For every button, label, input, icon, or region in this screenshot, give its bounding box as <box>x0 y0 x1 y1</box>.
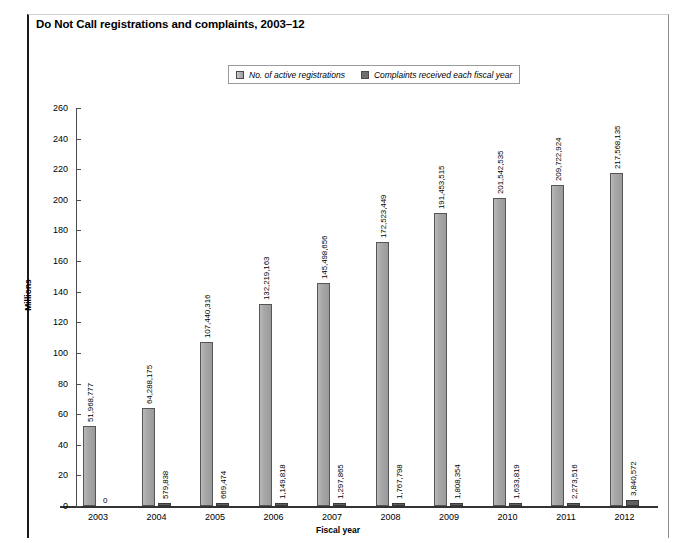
bar-value-complaints: 1,767,798 <box>395 464 404 499</box>
bar-registrations <box>317 283 330 506</box>
y-tick-mark <box>76 506 81 507</box>
y-tick-mark <box>76 292 81 293</box>
x-tick-label: 2004 <box>127 512 187 522</box>
bar-value-complaints: 579,838 <box>161 471 170 499</box>
bar-value-registrations: 209,722,924 <box>554 138 563 181</box>
bar-group: 145,498,6561,297,865 <box>317 108 357 506</box>
bar-value-registrations: 217,568,135 <box>613 126 622 169</box>
bar-value-complaints: 1,149,818 <box>278 464 287 499</box>
bar-complaints <box>216 503 229 506</box>
bar-registrations <box>434 213 447 506</box>
bar-registrations <box>259 304 272 506</box>
bar-value-complaints: 3,840,572 <box>629 461 638 496</box>
bar-registrations <box>493 198 506 507</box>
bar-value-registrations: 145,498,656 <box>320 236 329 279</box>
x-tick-label: 2009 <box>419 512 479 522</box>
x-tick-label: 2006 <box>244 512 304 522</box>
y-tick-label: 160 <box>53 256 68 266</box>
y-tick-mark <box>76 200 81 201</box>
bar-registrations <box>142 408 155 506</box>
bar-group: 107,440,316669,474 <box>200 108 240 506</box>
y-tick-mark <box>76 353 81 354</box>
legend-label-complaints: Complaints received each fiscal year <box>374 70 512 80</box>
y-tick-label: 80 <box>58 379 68 389</box>
x-tick-label: 2012 <box>595 512 655 522</box>
bar-complaints <box>567 503 580 506</box>
bar-complaints <box>333 503 346 506</box>
bar-registrations <box>376 242 389 506</box>
bar-value-complaints: 2,273,516 <box>570 464 579 499</box>
x-tick-label: 2005 <box>185 512 245 522</box>
y-axis-title: Millions <box>23 265 33 325</box>
y-tick-mark <box>76 322 81 323</box>
bar-value-registrations: 107,440,316 <box>203 294 212 337</box>
bar-complaints <box>509 503 522 506</box>
bar-registrations <box>83 426 96 506</box>
y-tick-mark <box>76 230 81 231</box>
bar-complaints <box>450 503 463 506</box>
bar-group: 191,453,5151,808,354 <box>434 108 474 506</box>
y-tick-label: 100 <box>53 348 68 358</box>
chart-title: Do Not Call registrations and complaints… <box>36 18 305 30</box>
y-tick-label: 40 <box>58 440 68 450</box>
bar-group: 132,219,1631,149,818 <box>259 108 299 506</box>
y-tick-label: 0 <box>63 501 68 511</box>
bar-value-registrations: 64,288,175 <box>145 365 154 404</box>
y-tick-mark <box>76 108 81 109</box>
bar-registrations <box>610 173 623 506</box>
bar-value-complaints: 1,633,819 <box>512 464 521 499</box>
legend-item-complaints: Complaints received each fiscal year <box>361 70 512 80</box>
y-tick-label: 140 <box>53 287 68 297</box>
bar-group: 201,542,5351,633,819 <box>493 108 533 506</box>
y-tick-label: 240 <box>53 134 68 144</box>
y-tick-label: 180 <box>53 225 68 235</box>
y-tick-label: 220 <box>53 164 68 174</box>
y-tick-mark <box>76 384 81 385</box>
chart-figure: Do Not Call registrations and complaints… <box>0 0 676 543</box>
x-axis-line <box>60 506 658 508</box>
y-tick-mark <box>76 475 81 476</box>
legend-item-registrations: No. of active registrations <box>236 70 345 80</box>
chart-legend: No. of active registrations Complaints r… <box>228 65 520 84</box>
bar-value-complaints: 1,808,354 <box>453 464 462 499</box>
bar-value-registrations: 201,542,535 <box>496 150 505 193</box>
y-tick-mark <box>76 445 81 446</box>
bar-group: 217,568,1353,840,572 <box>610 108 650 506</box>
y-tick-label: 200 <box>53 195 68 205</box>
y-tick-mark <box>76 139 81 140</box>
y-tick-label: 120 <box>53 317 68 327</box>
bar-group: 172,523,4491,767,798 <box>376 108 416 506</box>
bar-value-registrations: 191,453,515 <box>437 166 446 209</box>
bar-complaints <box>392 503 405 506</box>
x-tick-label: 2008 <box>361 512 421 522</box>
bar-registrations <box>200 342 213 506</box>
legend-swatch-registrations-icon <box>236 71 244 79</box>
y-tick-label: 20 <box>58 470 68 480</box>
y-tick-mark <box>76 169 81 170</box>
bar-group: 209,722,9242,273,516 <box>551 108 591 506</box>
x-tick-label: 2007 <box>302 512 362 522</box>
bar-value-complaints: 1,297,865 <box>336 464 345 499</box>
y-tick-mark <box>76 261 81 262</box>
bar-complaints <box>275 503 288 506</box>
legend-swatch-complaints-icon <box>361 71 369 79</box>
bar-group: 64,288,175579,838 <box>142 108 182 506</box>
bar-value-complaints: 0 <box>103 496 107 505</box>
y-axis-ticks: 020406080100120140160180200220240260 <box>40 108 68 506</box>
x-tick-label: 2010 <box>478 512 538 522</box>
x-axis-title: Fiscal year <box>0 525 676 535</box>
y-tick-label: 260 <box>53 103 68 113</box>
x-tick-label: 2011 <box>536 512 596 522</box>
bar-value-registrations: 172,523,449 <box>379 195 388 238</box>
bar-value-registrations: 51,968,777 <box>86 383 95 422</box>
plot-area: 51,968,777064,288,175579,838107,440,3166… <box>76 108 648 506</box>
bar-registrations <box>551 185 564 506</box>
bar-value-complaints: 669,474 <box>219 471 228 499</box>
bar-complaints <box>626 500 639 506</box>
bar-complaints <box>158 503 171 506</box>
x-tick-label: 2003 <box>68 512 128 522</box>
bar-group: 51,968,7770 <box>83 108 123 506</box>
y-tick-mark <box>76 414 81 415</box>
y-tick-label: 60 <box>58 409 68 419</box>
bar-value-registrations: 132,219,163 <box>262 256 271 299</box>
